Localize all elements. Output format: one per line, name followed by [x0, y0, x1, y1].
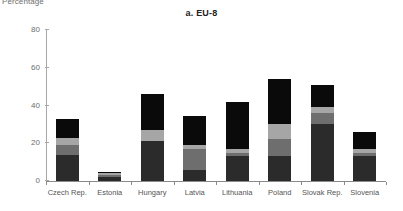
stacked-bar[interactable] — [268, 79, 291, 181]
bar-segment — [311, 124, 334, 181]
bar-segment — [353, 132, 376, 149]
stacked-bar[interactable] — [226, 102, 249, 181]
bar-slot — [216, 30, 259, 181]
bar-segment — [183, 149, 206, 170]
x-axis-category-label: Hungary — [131, 188, 174, 197]
x-axis-category-label: Estonia — [89, 188, 132, 197]
bar-segment — [311, 113, 334, 124]
bar-slot — [174, 30, 217, 181]
chart-container: Percentage a. EU-8 020406080 Czech Rep.E… — [0, 0, 403, 211]
x-axis-tick — [216, 182, 217, 185]
bar-segment — [183, 116, 206, 145]
y-axis-tick-label: 80 — [31, 25, 40, 34]
bar-slot — [131, 30, 174, 181]
bar-segment — [56, 138, 79, 146]
x-axis-category-label: Lithuania — [216, 188, 259, 197]
bar-segment — [183, 170, 206, 181]
y-axis-tick-label: 0 — [36, 176, 40, 185]
bar-slot — [259, 30, 302, 181]
x-axis-tick — [344, 182, 345, 185]
x-axis-tick — [46, 182, 47, 185]
x-axis-category-label: Slovenia — [344, 188, 387, 197]
x-axis-category-label: Poland — [259, 188, 302, 197]
bar-segment — [226, 156, 249, 181]
x-axis-tick — [259, 182, 260, 185]
x-axis-tick — [89, 182, 90, 185]
stacked-bar[interactable] — [98, 172, 121, 181]
stacked-bar[interactable] — [56, 119, 79, 181]
bar-slot — [301, 30, 344, 181]
x-axis-category-label: Latvia — [174, 188, 217, 197]
bar-segment — [56, 155, 79, 181]
y-axis-tick-label: 60 — [31, 62, 40, 71]
stacked-bar[interactable] — [353, 132, 376, 181]
bar-segment — [268, 156, 291, 181]
bar-group — [46, 30, 386, 181]
bar-segment — [268, 79, 291, 124]
bar-segment — [56, 145, 79, 154]
x-axis-tick — [386, 182, 387, 185]
bar-segment — [311, 85, 334, 108]
stacked-bar[interactable] — [183, 116, 206, 181]
bar-segment — [98, 177, 121, 181]
bar-segment — [353, 156, 376, 181]
x-axis-tick — [301, 182, 302, 185]
stacked-bar[interactable] — [141, 94, 164, 181]
bar-slot — [46, 30, 89, 181]
x-axis-tick — [174, 182, 175, 185]
y-axis-unit-label: Percentage — [2, 0, 44, 6]
x-axis-category-label: Czech Rep. — [46, 188, 89, 197]
bar-segment — [268, 124, 291, 139]
y-axis-tick-label: 40 — [31, 100, 40, 109]
bar-slot — [89, 30, 132, 181]
bar-segment — [226, 102, 249, 149]
chart-title: a. EU-8 — [0, 8, 403, 18]
bar-segment — [141, 141, 164, 181]
x-axis-category-label: Slovak Rep. — [301, 188, 344, 197]
bar-segment — [56, 119, 79, 138]
bar-slot — [344, 30, 387, 181]
stacked-bar[interactable] — [311, 85, 334, 181]
bar-segment — [141, 130, 164, 141]
bar-segment — [141, 94, 164, 130]
x-axis-tick — [131, 182, 132, 185]
x-axis-labels: Czech Rep.EstoniaHungaryLatviaLithuaniaP… — [46, 188, 386, 197]
plot-area: 020406080 — [46, 30, 386, 182]
bar-segment — [268, 139, 291, 156]
y-axis-tick-label: 20 — [31, 138, 40, 147]
